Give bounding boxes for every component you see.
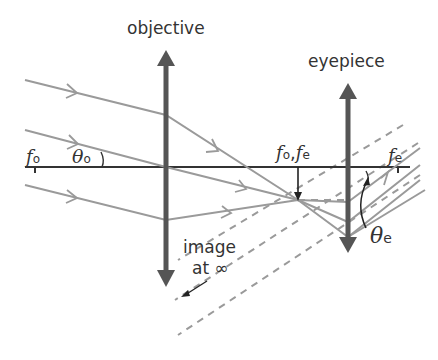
fo-left-label: fo <box>26 148 40 166</box>
image-label-line1: image <box>183 239 236 256</box>
intermediate-image-arrow <box>294 167 302 201</box>
telescope-diagram: objective eyepiece image at ∞ fo θo fo,f… <box>0 0 438 360</box>
fo-fe-label: fo,fe <box>276 144 310 162</box>
fe-right-label: fe <box>388 147 402 165</box>
objective-label: objective <box>127 20 205 37</box>
theta-o-label: θo <box>72 147 91 166</box>
theta-o-arc <box>101 152 103 167</box>
theta-e-label: θe <box>370 225 392 247</box>
ray-arrowheads <box>66 84 388 218</box>
eyepiece-label: eyepiece <box>308 53 385 70</box>
image-label-line2: at ∞ <box>192 260 229 277</box>
